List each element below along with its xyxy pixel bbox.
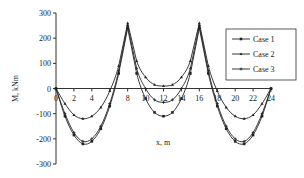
x-tick-label: 2 [72,94,76,103]
y-tick-label: 300 [39,9,51,18]
y-tick-label: -200 [36,135,51,144]
y-tick-label: 100 [39,59,51,68]
y-tick-label: -100 [36,110,51,119]
x-tick-label: 8 [126,94,130,103]
x-tick-label: 20 [231,94,239,103]
svg-text:Case 3: Case 3 [253,65,275,74]
y-axis-label: M, kNm [11,74,20,102]
chart: 3002001000-100-200-300024810121416182022… [0,0,304,178]
x-tick-label: 0 [54,94,58,103]
y-tick-label: 0 [47,85,51,94]
y-tick-label: 200 [39,34,51,43]
x-tick-label: 22 [249,94,257,103]
x-tick-label: 4 [90,94,94,103]
svg-text:Case 2: Case 2 [253,50,275,59]
y-tick-label: -300 [36,160,51,169]
x-tick-label: 16 [195,94,203,103]
x-axis-label: x, m [156,138,171,147]
svg-text:Case 1: Case 1 [253,35,275,44]
legend: Case 1Case 2Case 3 [226,29,296,80]
